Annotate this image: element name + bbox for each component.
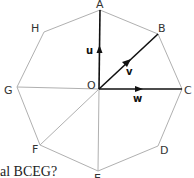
label-h: H bbox=[31, 22, 39, 35]
label-e: E bbox=[94, 172, 101, 178]
segment-of bbox=[40, 89, 99, 145]
label-b: B bbox=[158, 22, 166, 35]
label-g: G bbox=[4, 84, 13, 97]
label-c: C bbox=[184, 84, 192, 97]
label-vector-w: w bbox=[133, 93, 142, 104]
label-a: A bbox=[96, 0, 104, 11]
octagon-diagram: A B C D E F G H O u v w al BCEG? bbox=[0, 0, 194, 178]
question-text-fragment: al BCEG? bbox=[0, 164, 57, 178]
segment-oe bbox=[98, 89, 99, 171]
label-f: F bbox=[32, 143, 38, 156]
label-d: D bbox=[160, 144, 168, 157]
label-vector-u: u bbox=[86, 45, 93, 56]
vector-u-arrowhead bbox=[97, 45, 103, 53]
label-o: O bbox=[87, 79, 96, 92]
vector-w-arrowhead bbox=[135, 86, 143, 92]
label-vector-v: v bbox=[126, 66, 133, 77]
